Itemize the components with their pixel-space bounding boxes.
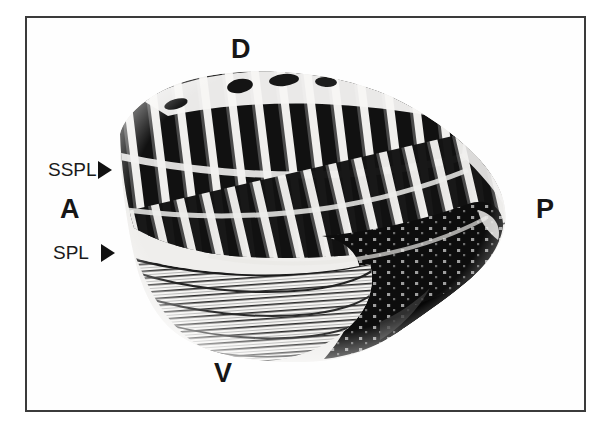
- orientation-label-ventral: V: [214, 360, 232, 387]
- specimen-micrograph-image: [112, 60, 512, 365]
- right-arrowhead-icon: [101, 244, 115, 262]
- annotation-sspl-label: SSPL: [48, 160, 97, 179]
- orientation-label-dorsal: D: [231, 36, 251, 63]
- annotation-spl-label: SPL: [53, 243, 89, 262]
- orientation-label-posterior: P: [536, 196, 554, 223]
- figure-root: D V A P SSPL SPL: [0, 0, 603, 432]
- annotation-sspl: SSPL: [48, 160, 112, 179]
- orientation-label-anterior: A: [60, 196, 80, 223]
- right-arrowhead-icon: [98, 161, 112, 179]
- annotation-spl: SPL: [53, 243, 115, 262]
